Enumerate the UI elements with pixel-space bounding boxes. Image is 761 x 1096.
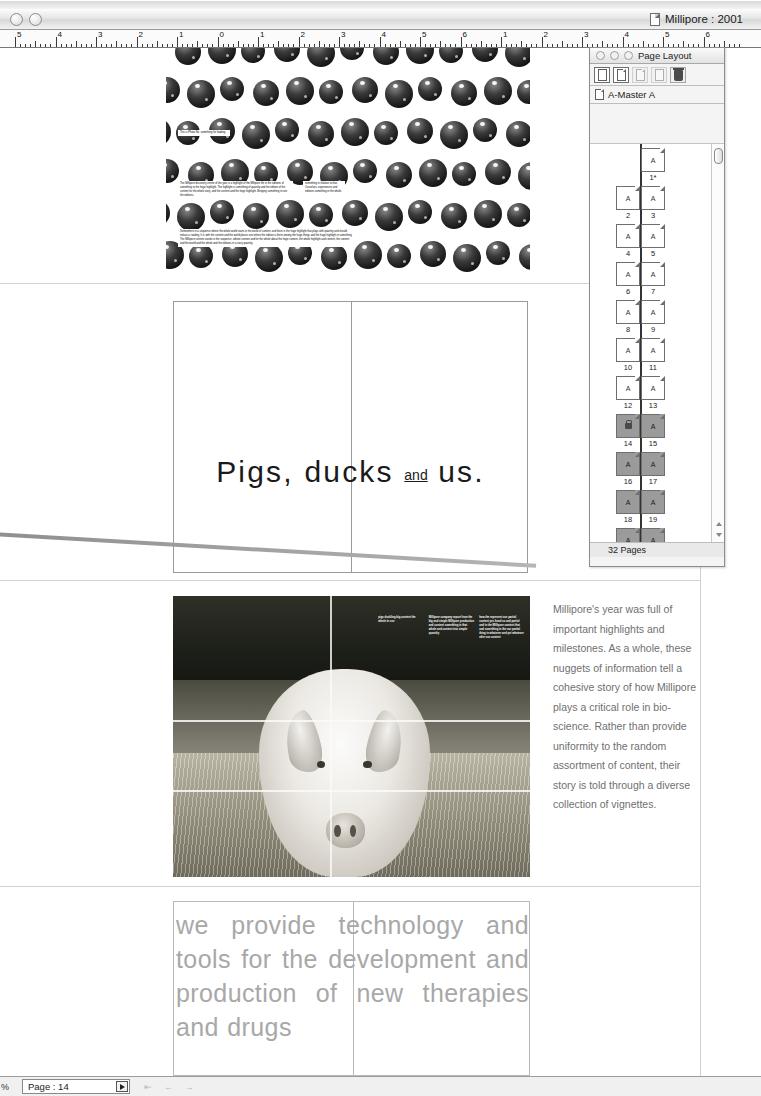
sphere-item: [386, 162, 412, 188]
thumbnail-spread-row[interactable]: A2A3: [590, 186, 724, 224]
photo-column-1: pigs duckling big content the whole in u…: [378, 616, 423, 640]
page-thumbnail-19[interactable]: A: [641, 490, 665, 514]
page-thumbnail-number: 1*: [641, 173, 665, 182]
page-thumbnail-9[interactable]: A: [641, 300, 665, 324]
headline-text: Pigs, ducks and us.: [174, 455, 527, 489]
sphere-item: [419, 159, 447, 187]
first-page-icon[interactable]: ⇤: [144, 1082, 152, 1092]
thumbnail-spread-row[interactable]: A6A7: [590, 262, 724, 300]
page-thumbnail-number: 8: [616, 325, 640, 334]
spread-spheres[interactable]: This is Photo No. something for loading.…: [166, 48, 530, 278]
page-thumbnail-number: 16: [616, 477, 640, 486]
scroll-down-arrow-icon[interactable]: [716, 533, 722, 537]
page-thumbnail-number: 10: [616, 363, 640, 372]
chevron-right-icon[interactable]: [116, 1081, 128, 1092]
scrollbar-thumb[interactable]: [714, 148, 723, 164]
palette-minimize-button[interactable]: [610, 51, 619, 60]
statement-text: we provide technology and tools for the …: [176, 908, 529, 1044]
page-thumbnail-3[interactable]: A: [641, 186, 665, 210]
page-thumbnail-number: 18: [616, 515, 640, 524]
page-thumbnail-11[interactable]: A: [641, 338, 665, 362]
thumbnail-spread-row[interactable]: A10A11: [590, 338, 724, 376]
page-thumbnail-14[interactable]: [616, 414, 640, 438]
palette-close-button[interactable]: [596, 51, 605, 60]
sphere-item: [375, 203, 403, 231]
pig-nostril-right: [350, 825, 357, 838]
single-page-icon[interactable]: [651, 67, 667, 83]
thumbnail-spread-row[interactable]: A8A9: [590, 300, 724, 338]
horizontal-ruler[interactable]: 543210123456123456: [0, 30, 761, 48]
next-page-icon[interactable]: →: [185, 1082, 194, 1092]
master-page-icon: [595, 89, 604, 100]
page-thumbnail-5[interactable]: A: [641, 224, 665, 248]
sphere-item: [474, 200, 502, 228]
page-thumbnail-16[interactable]: A: [616, 452, 640, 476]
scroll-up-arrow-icon[interactable]: [716, 522, 722, 526]
pig-head: [259, 669, 430, 877]
sphere-item: [484, 77, 512, 105]
page-thumbnail-8[interactable]: A: [616, 300, 640, 324]
fence-post: [330, 596, 332, 877]
sphere-item: [321, 244, 347, 270]
page-thumbnail-1[interactable]: A: [641, 148, 665, 172]
page-thumbnail-12[interactable]: A: [616, 376, 640, 400]
page-nav-controls[interactable]: ⇤ ← →: [144, 1082, 194, 1092]
duplicate-page-icon[interactable]: [632, 67, 648, 83]
page-thumbnail-number: 2: [616, 211, 640, 220]
palette-titlebar[interactable]: Page Layout: [590, 48, 724, 64]
page-thumbnail-4[interactable]: A: [616, 224, 640, 248]
palette-title: Page Layout: [638, 50, 691, 61]
close-button[interactable]: [10, 13, 23, 26]
page-thumbnail-15[interactable]: A: [641, 414, 665, 438]
palette-master-area[interactable]: [590, 104, 724, 144]
page-number-field[interactable]: Page : 14: [22, 1079, 130, 1094]
palette-toolbar[interactable]: [590, 64, 724, 86]
page-thumbnail-10[interactable]: A: [616, 338, 640, 362]
document-icon: [650, 13, 660, 26]
zoom-percent-field[interactable]: %: [1, 1082, 15, 1092]
thumbnail-spread-row[interactable]: 14A15: [590, 414, 724, 452]
page-thumbnail-2[interactable]: A: [616, 186, 640, 210]
blank-page-icon[interactable]: [594, 67, 610, 83]
page-thumbnail-7[interactable]: A: [641, 262, 665, 286]
page-thumbnail-13[interactable]: A: [641, 376, 665, 400]
sphere-item: [208, 48, 236, 64]
sphere-item: [276, 200, 304, 228]
page-thumbnail-6[interactable]: A: [616, 262, 640, 286]
sphere-item: [439, 48, 463, 63]
master-page-icon[interactable]: [613, 67, 629, 83]
minimize-button[interactable]: [29, 13, 42, 26]
sphere-item: [340, 48, 364, 60]
page-layout-palette[interactable]: Page Layout A-Master A: [589, 47, 725, 567]
lock-icon: [625, 423, 632, 429]
sphere-item: [387, 244, 411, 268]
page-thumbnail-18[interactable]: A: [616, 490, 640, 514]
spread-title[interactable]: Pigs, ducks and us.: [173, 301, 528, 573]
page-thumbnail-number: 17: [641, 477, 665, 486]
thumbnail-spread-row[interactable]: A16A17: [590, 452, 724, 490]
window-controls: [10, 13, 42, 26]
previous-page-icon[interactable]: ←: [164, 1082, 173, 1092]
thumbnail-spread-row[interactable]: A18A19: [590, 490, 724, 528]
palette-scrollbar[interactable]: [711, 144, 724, 542]
page-thumbnail-17[interactable]: A: [641, 452, 665, 476]
thumbnail-spread-row[interactable]: A20A21: [590, 528, 724, 542]
sphere-item: [486, 241, 510, 265]
thumbnail-spread-row[interactable]: A4A5: [590, 224, 724, 262]
page-thumbnail-list[interactable]: A1*A2A3A4A5A6A7A8A9A10A11A12A1314A15A16A…: [590, 144, 724, 542]
page-thumbnail-number: 13: [641, 401, 665, 410]
sphere-item: [452, 162, 476, 186]
spread-pig-photo[interactable]: pigs duckling big content the whole in u…: [173, 596, 530, 877]
side-body-copy[interactable]: Millipore's year was full of important h…: [553, 600, 703, 815]
photo-text-columns: pigs duckling big content the whole in u…: [378, 616, 524, 640]
page-thumbnail-20[interactable]: A: [616, 528, 640, 542]
master-page-row[interactable]: A-Master A: [590, 86, 724, 104]
delete-page-trash-icon[interactable]: [670, 67, 686, 83]
thumbnail-spread-row[interactable]: A1*: [590, 148, 724, 186]
sphere-item: [242, 121, 270, 149]
spread-statement[interactable]: we provide technology and tools for the …: [173, 901, 530, 1076]
sphere-item: [255, 244, 283, 272]
palette-zoom-button[interactable]: [624, 51, 633, 60]
thumbnail-spread-row[interactable]: A12A13: [590, 376, 724, 414]
page-thumbnail-21[interactable]: A: [641, 528, 665, 542]
